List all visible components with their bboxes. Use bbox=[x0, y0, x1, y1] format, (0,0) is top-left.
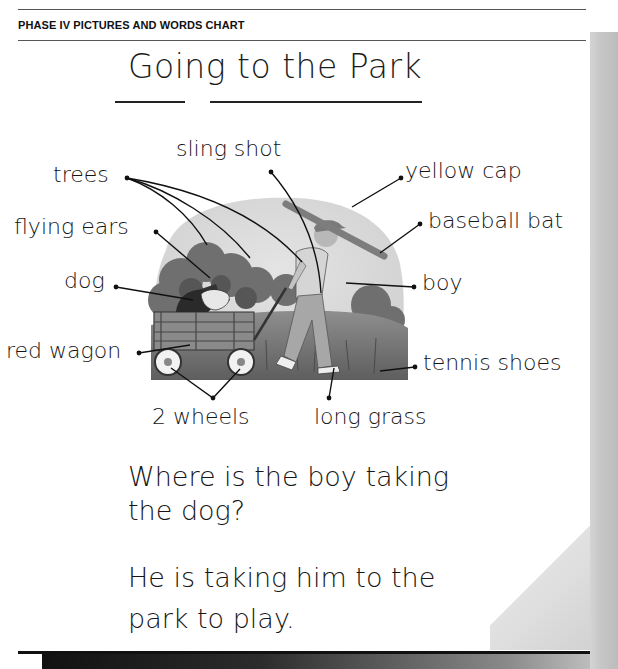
answer-line-1: He is taking him to the bbox=[128, 563, 435, 593]
footer-band bbox=[42, 654, 590, 669]
label-yellow-cap: yellow cap bbox=[405, 158, 522, 183]
top-rule bbox=[18, 9, 586, 10]
label-dog: dog bbox=[64, 268, 105, 293]
header-rule bbox=[18, 40, 586, 41]
question-line-1: Where is the boy taking bbox=[128, 462, 449, 492]
label-boy: boy bbox=[422, 270, 462, 295]
question-line-2: the dog? bbox=[128, 496, 245, 526]
label-baseball-bat: baseball bat bbox=[428, 208, 563, 233]
label-red-wagon: red wagon bbox=[6, 338, 121, 363]
page-corner-shade bbox=[490, 500, 590, 650]
scene-image bbox=[146, 190, 411, 380]
section-header: PHASE IV PICTURES AND WORDS CHART bbox=[18, 19, 245, 31]
label-tennis-shoes: tennis shoes bbox=[423, 350, 561, 375]
park-illustration bbox=[146, 190, 411, 380]
label-sling-shot: sling shot bbox=[176, 136, 281, 161]
label-flying-ears: flying ears bbox=[14, 214, 129, 239]
title-underline bbox=[115, 101, 185, 103]
answer-line-2: park to play. bbox=[128, 604, 295, 634]
label-long-grass: long grass bbox=[314, 404, 426, 429]
label-two-wheels: 2 wheels bbox=[152, 404, 250, 429]
label-trees: trees bbox=[53, 162, 109, 187]
title-underline bbox=[210, 101, 422, 103]
chart-title: Going to the Park bbox=[120, 47, 430, 86]
page-edge-shadow bbox=[590, 32, 618, 669]
